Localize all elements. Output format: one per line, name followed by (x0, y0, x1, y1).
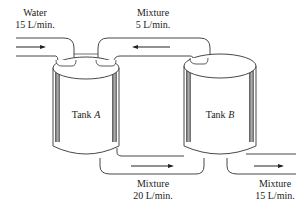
water-label-line1: Water (12, 7, 58, 19)
water-inlet-pipe (16, 38, 74, 62)
tank-b-label-var: B (228, 109, 234, 120)
b-to-a-label-line2: 5 L/min. (126, 19, 180, 31)
a-to-b-arrow (131, 164, 174, 168)
tank-a-label-prefix: Tank (72, 109, 94, 120)
b-to-a-label: Mixture 5 L/min. (126, 7, 180, 31)
a-to-b-label-line1: Mixture (126, 178, 180, 190)
tank-b (184, 54, 256, 154)
a-to-b-pipe (100, 148, 204, 174)
b-to-a-arrow (132, 45, 170, 49)
a-to-b-label: Mixture 20 L/min. (126, 178, 180, 202)
tank-a-label-var: A (94, 109, 100, 120)
outlet-label-line2: 15 L/min. (248, 190, 302, 202)
tank-a-label: Tank A (66, 109, 106, 121)
outlet-pipe (227, 154, 296, 174)
outlet-arrow (254, 164, 284, 168)
water-inlet-arrow (16, 45, 46, 49)
tank-a (53, 57, 119, 154)
water-inlet-label: Water 15 L/min. (12, 7, 58, 31)
a-to-b-label-line2: 20 L/min. (126, 190, 180, 202)
water-label-line2: 15 L/min. (12, 19, 58, 31)
tank-b-label-prefix: Tank (206, 109, 228, 120)
outlet-label: Mixture 15 L/min. (248, 178, 302, 202)
tank-b-label: Tank B (200, 109, 240, 121)
outlet-label-line1: Mixture (248, 178, 302, 190)
b-to-a-label-line1: Mixture (126, 7, 180, 19)
